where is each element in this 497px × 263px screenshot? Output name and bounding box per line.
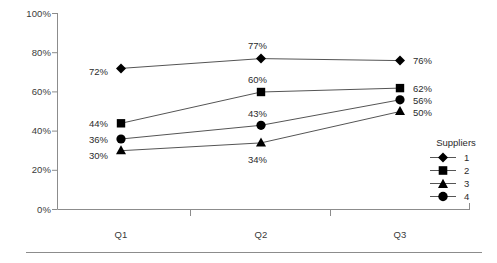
- y-tick-label-0: 0%: [5, 204, 51, 215]
- series-1-markers: [116, 54, 405, 74]
- legend-item-supplier-2[interactable]: 2: [428, 164, 492, 177]
- x-axis-ticks: [191, 210, 331, 217]
- legend-label-supplier-1: 1: [464, 152, 469, 163]
- circle-marker-icon: [428, 190, 458, 203]
- legend-item-supplier-4[interactable]: 4: [428, 190, 492, 203]
- chart-container: 100% 80% 60% 40% 20% 0% Q1 Q2 Q3 72% 44%…: [0, 0, 497, 263]
- data-label-q1-supplier2: 44%: [89, 118, 108, 129]
- data-label-q3-supplier3: 50%: [413, 107, 432, 118]
- y-tick-label-60: 60%: [5, 86, 51, 97]
- y-axis-ticks: [52, 14, 58, 210]
- y-tick-label-100: 100%: [5, 8, 51, 19]
- legend-label-supplier-2: 2: [464, 165, 469, 176]
- x-tick-label-q1: Q1: [91, 229, 151, 240]
- bottom-divider: [26, 252, 482, 253]
- data-label-q3-supplier4: 56%: [413, 95, 432, 106]
- legend: Suppliers 1 2: [414, 137, 492, 203]
- data-label-q1-supplier1: 72%: [89, 66, 108, 77]
- data-label-q1-supplier4: 36%: [89, 134, 108, 145]
- data-label-q3-supplier1: 76%: [413, 55, 432, 66]
- data-label-q2-supplier1: 77%: [248, 40, 267, 51]
- data-label-q2-supplier4: 43%: [248, 108, 267, 119]
- legend-title: Suppliers: [420, 137, 492, 148]
- data-label-q2-supplier3: 34%: [248, 154, 267, 165]
- data-label-q1-supplier3: 30%: [89, 150, 108, 161]
- triangle-marker-icon: [428, 177, 458, 190]
- legend-item-supplier-3[interactable]: 3: [428, 177, 492, 190]
- series-4-markers: [116, 95, 404, 143]
- legend-label-supplier-3: 3: [464, 178, 469, 189]
- legend-label-supplier-4: 4: [464, 191, 469, 202]
- data-label-q3-supplier2: 62%: [413, 83, 432, 94]
- x-tick-label-q2: Q2: [231, 229, 291, 240]
- y-tick-label-20: 20%: [5, 164, 51, 175]
- diamond-marker-icon: [428, 151, 458, 164]
- data-label-q2-supplier2: 60%: [248, 74, 267, 85]
- legend-item-supplier-1[interactable]: 1: [428, 151, 492, 164]
- x-tick-label-q3: Q3: [370, 229, 430, 240]
- square-marker-icon: [428, 164, 458, 177]
- series-4-line: [121, 100, 400, 139]
- y-tick-label-40: 40%: [5, 125, 51, 136]
- y-tick-label-80: 80%: [5, 47, 51, 58]
